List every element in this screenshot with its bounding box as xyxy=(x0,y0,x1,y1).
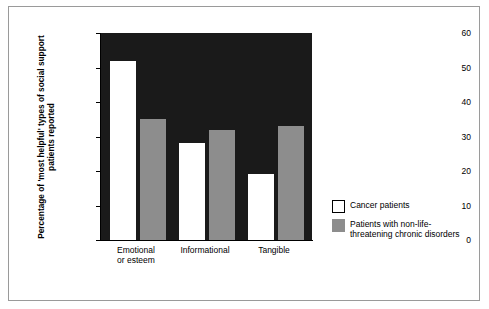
y-tick-label-20: 20 xyxy=(462,166,471,176)
y-tick-label-60: 60 xyxy=(462,28,471,38)
legend-label-chronic-line2: threatening chronic disorders xyxy=(350,229,460,239)
x-tick-label-emotional-line1: Emotional xyxy=(101,245,171,255)
y-axis-label-container: Percentage of 'most helpful' types of so… xyxy=(35,33,53,240)
x-tick-label-informational: Informational xyxy=(170,245,240,255)
legend-swatch-cancer-patients xyxy=(332,200,345,213)
chart-frame: Percentage of 'most helpful' types of so… xyxy=(8,6,480,301)
x-tick-label-tangible: Tangible xyxy=(239,245,309,255)
legend-label-cancer-line1: Cancer patients xyxy=(350,200,410,210)
y-tick-label-10: 10 xyxy=(462,201,471,211)
plot-area xyxy=(101,33,312,240)
legend-swatch-chronic-patients xyxy=(332,219,345,232)
bar-tangible-cancer xyxy=(248,174,274,240)
bar-informational-chronic xyxy=(209,130,235,240)
bar-informational-cancer xyxy=(179,143,205,240)
x-tick-label-emotional-line2: or esteem xyxy=(101,255,171,265)
bar-emotional-cancer xyxy=(110,61,136,240)
x-tick-label-tangible-line1: Tangible xyxy=(239,245,309,255)
x-tick-label-emotional: Emotional or esteem xyxy=(101,245,171,265)
legend-label-chronic-line1: Patients with non-life- xyxy=(350,219,460,229)
y-tick-label-50: 50 xyxy=(462,63,471,73)
y-tick-label-30: 30 xyxy=(462,132,471,142)
legend-label-chronic-patients: Patients with non-life- threatening chro… xyxy=(350,219,460,239)
x-axis-line xyxy=(100,240,313,241)
legend-label-cancer-patients: Cancer patients xyxy=(350,200,410,210)
bar-tangible-chronic xyxy=(278,126,304,240)
y-tick-label-40: 40 xyxy=(462,97,471,107)
x-tick-label-informational-line1: Informational xyxy=(170,245,240,255)
bar-emotional-chronic xyxy=(140,119,166,240)
y-tick-label-0: 0 xyxy=(466,235,471,245)
y-axis-label: Percentage of 'most helpful' types of so… xyxy=(35,33,53,240)
